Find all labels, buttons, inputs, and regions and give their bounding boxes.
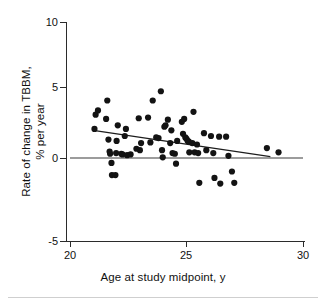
scatter-plot-figure: 10 5 0 -5 20 25 30 Rate of change in TBB… (0, 0, 326, 303)
data-point (216, 134, 222, 140)
data-point (167, 140, 173, 146)
data-point (275, 149, 281, 155)
data-point (264, 145, 270, 151)
data-point (114, 138, 120, 144)
data-point (159, 147, 165, 153)
data-point (173, 161, 179, 167)
data-point (165, 117, 171, 123)
data-point (196, 180, 202, 186)
data-point (211, 175, 217, 181)
data-point (147, 139, 153, 145)
data-point (203, 147, 209, 153)
data-point (201, 130, 207, 136)
data-point (138, 140, 144, 146)
data-point (160, 154, 166, 160)
data-point (158, 88, 164, 94)
data-point (186, 149, 192, 155)
data-point (195, 150, 201, 156)
data-point (190, 109, 196, 115)
data-point (105, 136, 111, 142)
data-point (229, 168, 235, 174)
data-point (223, 134, 229, 140)
data-point (123, 126, 129, 132)
data-point (127, 151, 133, 157)
data-point (145, 114, 151, 120)
data-point (108, 160, 114, 166)
data-point (103, 116, 109, 122)
data-point (95, 107, 101, 113)
data-point (104, 97, 110, 103)
data-point (162, 122, 168, 128)
data-point (137, 147, 143, 153)
footer-rule (8, 297, 318, 298)
data-point (181, 116, 187, 122)
data-layer (0, 0, 326, 303)
data-point (217, 180, 223, 186)
x-axis-title: Age at study midpoint, y (0, 271, 326, 283)
data-point (122, 133, 128, 139)
data-point (210, 150, 216, 156)
plot-area: 10 5 0 -5 20 25 30 (0, 0, 326, 303)
data-point (155, 135, 161, 141)
data-point (208, 133, 214, 139)
data-point (168, 127, 174, 133)
data-point (115, 122, 121, 128)
data-point (112, 172, 118, 178)
data-points-group (91, 88, 281, 186)
data-point (174, 138, 180, 144)
data-point (136, 115, 142, 121)
data-point (172, 151, 178, 157)
data-point (91, 126, 97, 132)
y-axis-title: Rate of change in TBBM, % per year (20, 37, 47, 227)
data-point (231, 180, 237, 186)
data-point (107, 151, 113, 157)
data-point (194, 141, 200, 147)
data-point (150, 97, 156, 103)
data-point (225, 153, 231, 159)
